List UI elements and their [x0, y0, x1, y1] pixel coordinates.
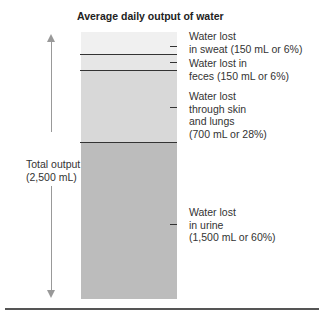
- arrow-down-icon: [47, 290, 55, 298]
- label-sweat: Water lost in sweat (150 mL or 6%): [189, 30, 302, 55]
- total-output-label: Total output (2,500 mL): [26, 158, 80, 183]
- label-urine: Water lost in urine (1,500 mL or 60%): [189, 206, 276, 244]
- base-line: [5, 308, 319, 310]
- tick-feces: [170, 62, 177, 63]
- arrow-up-icon: [47, 34, 55, 42]
- tick-urine: [170, 224, 177, 225]
- segment-skin-lungs: [81, 70, 177, 142]
- divider-sweat-feces: [80, 54, 177, 55]
- divider-skin-urine: [80, 142, 177, 143]
- tick-skin-lungs: [170, 107, 177, 108]
- segment-urine: [81, 142, 177, 299]
- segment-feces: [81, 54, 177, 70]
- segment-sweat: [81, 32, 177, 54]
- tick-sweat: [170, 46, 177, 47]
- label-skin-lungs: Water lost through skin and lungs (700 m…: [189, 90, 267, 140]
- stacked-bar: [81, 32, 177, 299]
- total-axis-line: [51, 40, 52, 132]
- label-feces: Water lost in feces (150 mL or 6%): [189, 57, 289, 82]
- divider-feces-skin: [80, 70, 177, 71]
- chart-title: Average daily output of water: [77, 10, 224, 22]
- total-axis-line-lower: [51, 186, 52, 292]
